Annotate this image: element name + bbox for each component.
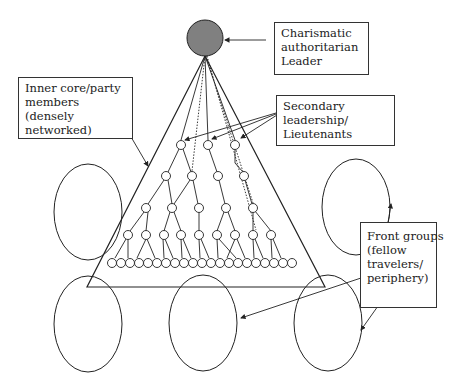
secondary-arrow-1 xyxy=(185,113,276,140)
front-group-bottom-left xyxy=(54,276,122,372)
organization-diagram xyxy=(0,0,450,390)
level2-nodes xyxy=(162,172,249,181)
front-groups-arrow-3 xyxy=(361,306,378,330)
lieutenant-nodes xyxy=(177,141,240,150)
front-groups-arrow-2 xyxy=(241,278,361,318)
leader-label: Charismatic authoritarian Leader xyxy=(274,22,369,75)
front-groups-label: Front groups (fellow travelers/ peripher… xyxy=(360,222,437,308)
level3-nodes xyxy=(142,204,258,213)
inner-core-label: Inner core/party members (densely networ… xyxy=(18,77,133,139)
front-group-left-middle xyxy=(54,164,122,260)
secondary-arrow-2 xyxy=(212,114,276,139)
tree-nodes xyxy=(108,141,297,268)
level4-nodes xyxy=(124,231,276,240)
secondary-leadership-label: Secondary leadership/ Lieutenants xyxy=(276,95,395,146)
member-nodes-bottom-row xyxy=(108,259,297,268)
front-group-bottom-middle xyxy=(169,275,237,371)
leader-node xyxy=(187,20,223,56)
